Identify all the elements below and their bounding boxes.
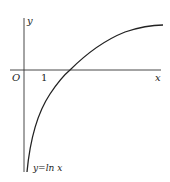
plot-area xyxy=(0,0,170,182)
origin-label: O xyxy=(12,73,20,83)
x-tick-1: 1 xyxy=(41,73,47,83)
ln-curve xyxy=(27,25,163,172)
x-axis-label: x xyxy=(155,73,161,83)
y-axis-label: y xyxy=(27,16,33,26)
curve-label: y=ln x xyxy=(33,164,62,173)
